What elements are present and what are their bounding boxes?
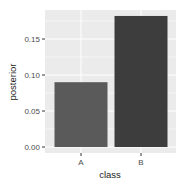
x-axis: AB bbox=[78, 153, 143, 167]
y-tick-label: 0.15 bbox=[24, 35, 40, 44]
y-tick-label: 0.00 bbox=[24, 143, 40, 152]
x-tick-label: A bbox=[78, 158, 84, 167]
y-axis: 0.000.050.100.15 bbox=[24, 35, 45, 152]
bar-b bbox=[115, 16, 168, 147]
y-axis-title: posterior bbox=[7, 64, 18, 101]
bar-chart: 0.000.050.100.15 AB class posterior bbox=[0, 0, 186, 192]
bar-a bbox=[55, 82, 108, 147]
x-tick-label: B bbox=[138, 158, 143, 167]
y-tick-label: 0.05 bbox=[24, 107, 40, 116]
y-tick-label: 0.10 bbox=[24, 71, 40, 80]
x-axis-title: class bbox=[99, 169, 121, 180]
